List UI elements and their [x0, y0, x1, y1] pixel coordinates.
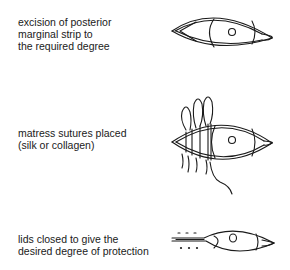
tarsorrhaphy-diagram — [0, 0, 290, 270]
eye-closed-figure — [172, 231, 274, 251]
eye-sutures-figure — [172, 97, 272, 194]
eye-excision-figure — [172, 18, 272, 47]
